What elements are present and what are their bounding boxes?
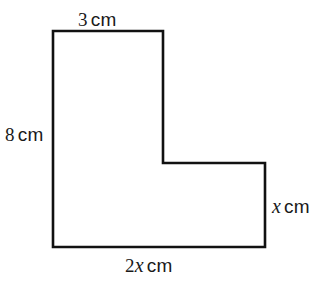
dimension-top-unit: cm [91, 9, 117, 30]
dimension-left-number: 8 [5, 124, 15, 145]
dimension-top-number: 3 [78, 9, 88, 30]
dimension-label-left: 8cm [5, 125, 43, 144]
dimension-right-unit: cm [284, 196, 310, 217]
dimension-bottom-number: 2 [125, 255, 135, 276]
l-shape-outline [0, 0, 331, 282]
dimension-label-top: 3cm [78, 10, 116, 29]
dimension-bottom-variable: x [135, 254, 144, 276]
dimension-left-unit: cm [18, 124, 44, 145]
dimension-right-variable: x [272, 195, 281, 217]
dimension-label-bottom: 2xcm [125, 255, 173, 275]
dimension-bottom-unit: cm [147, 255, 173, 276]
dimension-label-right: xcm [272, 196, 310, 216]
l-shape-polygon [53, 31, 265, 247]
geometry-figure: 3cm 8cm xcm 2xcm [0, 0, 331, 282]
